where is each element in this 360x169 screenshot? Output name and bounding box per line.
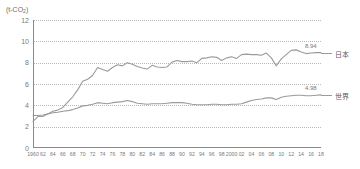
y-axis-tick-label: 2 xyxy=(3,123,29,130)
x-axis-tick-label: 82 xyxy=(139,151,145,157)
y-axis-unit-label: (t-CO2) xyxy=(6,6,28,13)
series-lines xyxy=(33,20,321,148)
x-axis-tick-label: 90 xyxy=(179,151,185,157)
x-axis-tick-label: 18 xyxy=(318,151,324,157)
x-axis-tick-label: 96 xyxy=(209,151,215,157)
x-axis-tick-label: 16 xyxy=(308,151,314,157)
x-axis-tick-label: 12 xyxy=(288,151,294,157)
y-axis-tick-label: 4 xyxy=(3,102,29,109)
x-axis-tick-label: 76 xyxy=(110,151,116,157)
x-axis-tick-label: 74 xyxy=(100,151,106,157)
x-axis-tick-label: 66 xyxy=(60,151,66,157)
y-axis-tick-label: 12 xyxy=(3,17,29,24)
x-axis-tick-label: 94 xyxy=(199,151,205,157)
series-end-value-label: 4.98 xyxy=(305,85,317,91)
series-name-label: 世界 xyxy=(335,91,349,101)
series-leader-line xyxy=(321,95,332,96)
y-axis-tick-label: 8 xyxy=(3,59,29,66)
x-axis-tick-label: 1960 xyxy=(27,151,39,157)
x-axis-tick-label: 86 xyxy=(159,151,165,157)
x-axis-tick-label: 92 xyxy=(189,151,195,157)
x-axis-tick-label: 02 xyxy=(239,151,245,157)
x-axis-tick-label: 64 xyxy=(50,151,56,157)
plot-area: 121086420 196062646668707274767880828486… xyxy=(33,20,321,148)
x-axis-tick-label: 06 xyxy=(259,151,265,157)
y-axis-tick-label: 6 xyxy=(3,81,29,88)
x-axis-tick-label: 98 xyxy=(219,151,225,157)
series-name-label: 日本 xyxy=(335,49,349,59)
x-axis-tick-label: 2000 xyxy=(226,151,238,157)
x-axis-tick-label: 88 xyxy=(169,151,175,157)
x-axis-tick-label: 08 xyxy=(268,151,274,157)
x-axis-tick-label: 72 xyxy=(90,151,96,157)
series-line xyxy=(33,95,321,116)
series-line xyxy=(33,50,321,121)
y-axis-tick-label: 0 xyxy=(3,145,29,152)
series-leader-line xyxy=(321,53,332,54)
x-axis-tick-label: 84 xyxy=(149,151,155,157)
x-axis-tick-label: 04 xyxy=(249,151,255,157)
y-axis-tick-label: 10 xyxy=(3,38,29,45)
x-axis-tick-label: 10 xyxy=(278,151,284,157)
x-axis-tick-label: 78 xyxy=(119,151,125,157)
series-end-value-label: 8.94 xyxy=(305,43,317,49)
co2-per-capita-line-chart: (t-CO2) 121086420 1960626466687072747678… xyxy=(0,0,360,169)
x-axis-tick-label: 80 xyxy=(129,151,135,157)
x-axis-tick-label: 14 xyxy=(298,151,304,157)
x-axis-tick-label: 68 xyxy=(70,151,76,157)
x-axis-tick-label: 70 xyxy=(80,151,86,157)
x-axis-tick-label: 62 xyxy=(40,151,46,157)
